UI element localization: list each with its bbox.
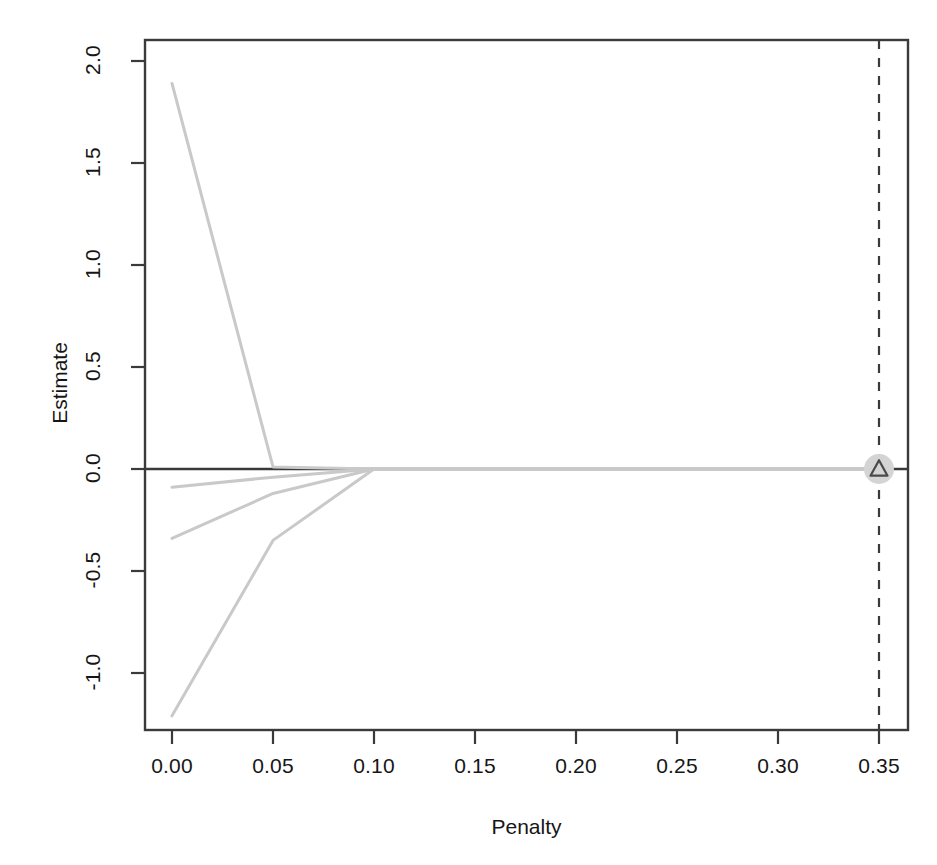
- plot-frame: [145, 40, 908, 730]
- series-line: [172, 469, 879, 487]
- series-lines: [172, 83, 879, 715]
- x-tick-label: 0.10: [344, 754, 404, 778]
- x-tick-label: 0.00: [142, 754, 202, 778]
- y-tick-label: -0.5: [81, 540, 105, 600]
- y-tick-label: -1.0: [81, 642, 105, 702]
- series-line: [172, 83, 879, 469]
- y-tick-label: 1.0: [81, 234, 105, 294]
- y-axis-title: Estimate: [48, 293, 72, 473]
- x-tick-label: 0.25: [647, 754, 707, 778]
- x-tick-label: 0.15: [445, 754, 505, 778]
- x-tick-label: 0.30: [748, 754, 808, 778]
- y-tick-label: 2.0: [81, 30, 105, 90]
- x-axis-title: Penalty: [427, 815, 627, 839]
- x-tick-label: 0.35: [849, 754, 909, 778]
- reference-lines: [145, 40, 908, 730]
- y-tick-label: 0.0: [81, 438, 105, 498]
- y-tick-label: 1.5: [81, 132, 105, 192]
- series-line: [172, 469, 879, 716]
- y-axis-ticks: [131, 61, 145, 673]
- x-tick-label: 0.05: [243, 754, 303, 778]
- coefficient-path-chart: 0.000.050.100.150.200.250.300.35 2.01.51…: [0, 0, 937, 865]
- x-axis-ticks: [172, 730, 879, 744]
- series-line: [172, 469, 879, 538]
- x-tick-label: 0.20: [546, 754, 606, 778]
- y-tick-label: 0.5: [81, 336, 105, 396]
- data-markers: [864, 454, 894, 484]
- plot-canvas: [0, 0, 937, 865]
- selected-penalty-marker-halo: [864, 454, 894, 484]
